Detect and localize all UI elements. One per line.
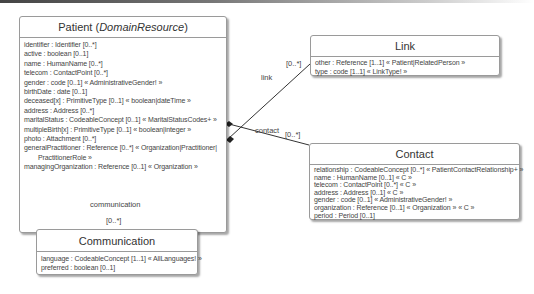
attribute: maritalStatus : CodeableConcept [0..1] «… [24,115,222,124]
attribute-list: identifier : Identifier [0..*] active : … [20,38,226,174]
class-title: Contact [310,144,519,165]
class-name: Link [395,40,415,52]
attribute: preferred : boolean [0..1] [41,263,193,272]
attribute: organization : Reference [0..1] « Organi… [314,204,515,212]
attribute: birthDate : date [0..1] [24,87,222,96]
attribute: telecom : ContactPoint [0..*] [24,68,222,77]
attribute: language : CodeableConcept [1..1] « AllL… [41,254,193,263]
attribute: telecom : ContactPoint [0..*] « C » [314,181,515,189]
link-role-label: link [261,73,272,82]
link-composition-diamond [226,136,234,143]
attribute: address : Address [0..*] [24,106,222,115]
attribute-list: relationship : CodeableConcept [0..*] « … [310,165,519,221]
attribute: multipleBirth[x] : PrimitiveType [0..1] … [24,125,222,134]
attribute: gender : code [0..1] « AdministrativeGen… [24,78,222,87]
attribute: name : HumanName [0..1] « C » [314,174,515,182]
attribute: deceased[x] : PrimitiveType [0..1] « boo… [24,96,222,105]
class-title: Patient (DomainResource) [20,17,226,38]
attribute: managingOrganization : Reference [0..1] … [24,162,222,171]
attribute-list: other : Reference [1..1] « Patient|Relat… [311,57,499,79]
attribute-continuation: PractitionerRole » [24,153,222,162]
attribute: period : Period [0..1] [314,212,515,220]
attribute: active : boolean [0..1] [24,49,222,58]
class-name: Contact [396,148,434,160]
attribute: name : HumanName [0..*] [24,59,222,68]
link-multiplicity: [0..*] [286,59,301,68]
attribute: gender : code [0..1] « AdministrativeGen… [314,196,515,204]
contact-role-label: contact [255,126,279,135]
attribute: photo : Attachment [0..*] [24,134,222,143]
class-name: Communication [79,235,155,247]
attribute: relationship : CodeableConcept [0..*] « … [314,166,515,174]
communication-role-label: communication [90,200,140,209]
class-contact[interactable]: Contact relationship : CodeableConcept [… [309,143,520,220]
class-title: Link [311,36,499,57]
attribute: generalPractitioner : Reference [0..*] «… [24,143,222,152]
class-link[interactable]: Link other : Reference [1..1] « Patient|… [310,35,500,76]
class-communication[interactable]: Communication language : CodeableConcept… [36,229,198,275]
attribute-list: language : CodeableConcept [1..1] « AllL… [37,252,197,275]
attribute: identifier : Identifier [0..*] [24,40,222,49]
communication-multiplicity: [0..*] [106,216,121,225]
class-stereotype: DomainResource [99,21,184,33]
contact-multiplicity: [0..*] [285,130,300,139]
class-name: Patient [58,21,92,33]
attribute: type : code [1..1] « LinkType! » [315,67,495,76]
class-title: Communication [37,230,197,252]
attribute: other : Reference [1..1] « Patient|Relat… [315,58,495,67]
attribute: address : Address [0..1] « C » [314,189,515,197]
